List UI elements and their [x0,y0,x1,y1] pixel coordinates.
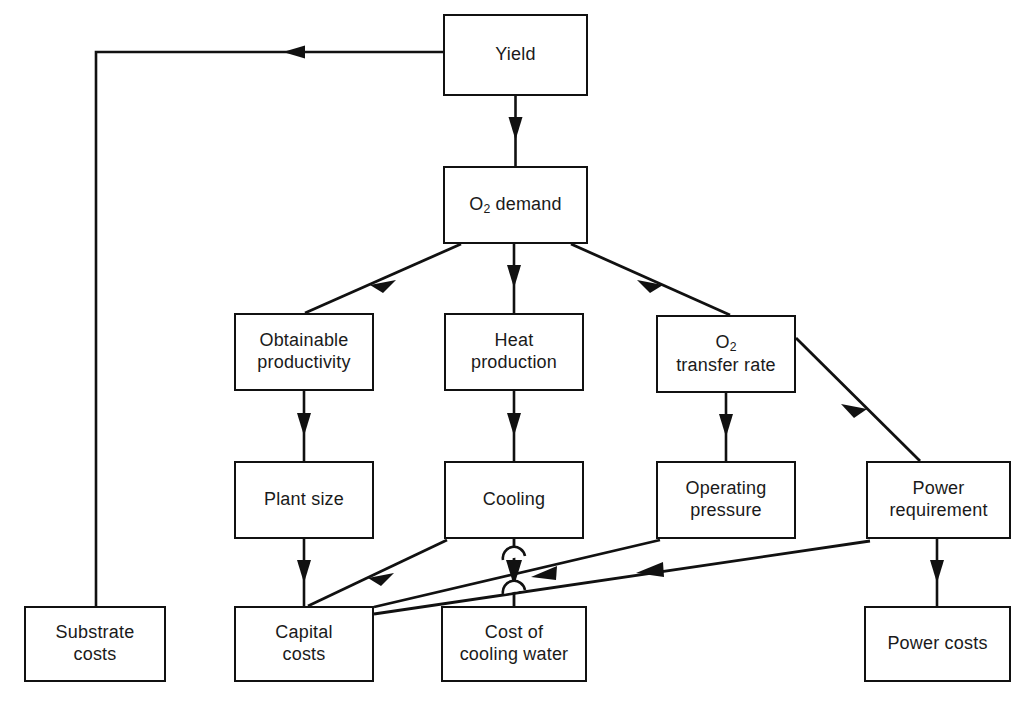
node-plant-size-label: Plant size [260,489,348,511]
node-power-costs-label: Power costs [883,633,991,655]
node-yield[interactable]: Yield [443,14,588,96]
edge-yield-to-o2demand [509,96,523,166]
node-obtainable-productivity[interactable]: Obtainable productivity [234,313,374,391]
node-o2-demand-label: O2 demand [465,194,565,217]
node-o2-transfer-rate[interactable]: O2transfer rate [656,315,796,393]
edge-power-to-capital [374,541,870,614]
node-yield-label: Yield [491,44,539,66]
node-obtainable-productivity-label: Obtainable productivity [253,330,354,374]
node-cooling[interactable]: Cooling [444,461,584,539]
node-heat-production[interactable]: Heatproduction [444,313,584,391]
edge-o2transfer-to-operating [719,393,733,461]
node-heat-production-label: Heatproduction [467,330,561,374]
node-o2-transfer-rate-label: O2transfer rate [672,332,780,377]
edge-obtainable-to-plantsize [297,391,311,461]
node-operating-pressure[interactable]: Operating pressure [656,461,796,539]
node-power-requirement-label: Power requirement [885,478,991,522]
edge-o2demand-to-heat [507,244,521,313]
node-cost-of-cooling-water[interactable]: Cost of cooling water [441,606,587,682]
node-power-costs[interactable]: Power costs [864,606,1011,682]
edge-o2demand-to-obtainable [305,244,461,313]
node-plant-size[interactable]: Plant size [234,461,374,539]
edge-plantsize-to-capital [297,539,311,606]
node-power-requirement[interactable]: Power requirement [866,461,1011,539]
node-operating-pressure-label: Operating pressure [682,478,771,522]
node-substrate-costs-label: Substratecosts [52,622,139,666]
node-substrate-costs[interactable]: Substratecosts [24,606,166,682]
node-cooling-label: Cooling [479,489,549,511]
node-capital-costs[interactable]: Capitalcosts [234,606,374,682]
edge-power-to-powercosts [930,539,944,606]
node-o2-demand[interactable]: O2 demand [443,166,588,244]
node-cost-of-cooling-water-label: Cost of cooling water [456,622,573,666]
edge-heat-to-cooling [507,391,521,461]
edge-o2demand-to-o2transfer [571,244,730,315]
node-capital-costs-label: Capitalcosts [271,622,336,666]
flowchart-canvas: Yield O2 demand Obtainable productivity … [0,0,1029,717]
edge-o2transfer-to-power [796,338,920,461]
